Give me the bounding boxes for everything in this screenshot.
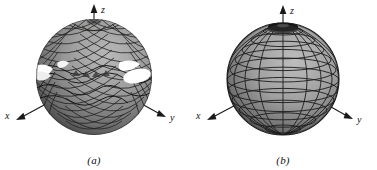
panel-b: z x y [189, 0, 377, 170]
axis-label-z-b: z [289, 5, 294, 16]
sphere-b-plot: z x y [189, 0, 377, 170]
sphere-a-body [25, 15, 163, 135]
axis-label-z-a: z [100, 4, 105, 15]
sphere-b-body [223, 23, 343, 135]
axis-label-x-a: x [4, 110, 10, 121]
sphere-b-pole-hole [277, 24, 289, 28]
panel-a: z x y [0, 0, 188, 170]
axis-label-y-b: y [356, 114, 362, 125]
axis-label-y-a: y [169, 112, 175, 123]
sphere-a-pole-cap [87, 20, 101, 25]
caption-b: (b) [189, 154, 377, 166]
caption-a: (a) [0, 154, 188, 166]
sphere-a-plot: z x y [0, 0, 188, 170]
figure-root: z x y [0, 0, 377, 170]
axis-label-x-b: x [195, 110, 201, 121]
